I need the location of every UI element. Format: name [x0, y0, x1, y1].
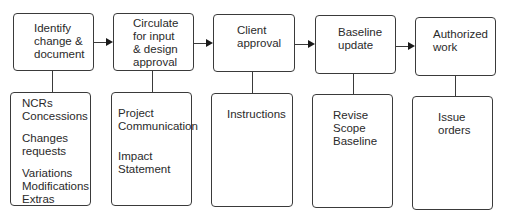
arrow-head-icon: [308, 40, 315, 48]
step-title-line: update: [338, 39, 382, 52]
detail-line: Instructions: [227, 108, 286, 121]
detail-line: Scope: [333, 122, 377, 135]
step-title-line: Baseline: [338, 26, 382, 39]
detail-line: Revise: [333, 109, 377, 122]
step-box-authorized-work: Authorized work: [415, 17, 496, 76]
detail-connector: [455, 76, 456, 96]
step-title-line: work: [433, 41, 488, 54]
flow-connector: [396, 46, 408, 47]
detail-box-baseline-update: Revise Scope Baseline: [312, 94, 393, 208]
detail-connector: [52, 71, 53, 92]
detail-line: Extras: [22, 193, 89, 206]
detail-line: Project: [118, 107, 198, 120]
step-title-line: Identify: [34, 22, 85, 35]
detail-line: Variations: [22, 167, 89, 180]
detail-line: Impact: [118, 150, 198, 163]
step-title-line: Client: [237, 24, 281, 37]
detail-connector: [152, 71, 153, 92]
detail-box-circulate: Project Communication Impact Statement: [111, 92, 192, 206]
detail-line: Modifications: [22, 180, 89, 193]
detail-line: Baseline: [333, 135, 377, 148]
step-box-circulate: Circulate for input & design approval: [113, 13, 194, 71]
detail-line: Changes: [22, 132, 89, 145]
step-box-identify-change: Identify change & document: [13, 13, 94, 71]
detail-line: Concessions: [22, 110, 89, 123]
flow-connector: [295, 44, 308, 45]
step-title-line: & design: [133, 43, 178, 56]
step-title-line: Circulate: [133, 17, 178, 30]
detail-connector: [353, 74, 354, 94]
arrow-head-icon: [106, 38, 113, 46]
detail-connector: [252, 72, 253, 93]
step-box-client-approval: Client approval: [213, 14, 295, 72]
detail-line: requests: [22, 145, 89, 158]
detail-line: NCRs: [22, 97, 89, 110]
arrow-head-icon: [408, 42, 415, 50]
detail-box-client-approval: Instructions: [211, 93, 293, 207]
step-title-line: approval: [237, 37, 281, 50]
step-title-line: for input: [133, 30, 178, 43]
detail-line: orders: [438, 124, 471, 137]
detail-box-identify-change: NCRs Concessions Changes requests Variat…: [10, 92, 91, 206]
step-title-line: approval: [133, 56, 178, 69]
arrow-head-icon: [206, 39, 213, 47]
detail-line: Issue: [438, 111, 471, 124]
step-box-baseline-update: Baseline update: [315, 15, 396, 74]
flow-connector: [194, 43, 206, 44]
detail-box-authorized-work: Issue orders: [412, 96, 493, 210]
step-title-line: change &: [34, 35, 85, 48]
step-title-line: document: [34, 48, 85, 61]
flow-connector: [94, 42, 106, 43]
step-title-line: Authorized: [433, 28, 488, 41]
detail-line: Statement: [118, 163, 198, 176]
detail-line: Communication: [118, 120, 198, 133]
